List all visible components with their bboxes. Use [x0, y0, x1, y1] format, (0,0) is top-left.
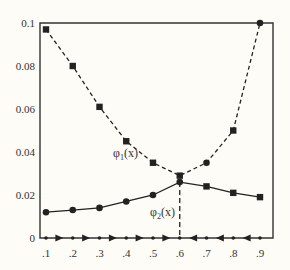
- series-line-1: [46, 23, 260, 176]
- x-axis-dot: [258, 236, 262, 240]
- x-tick-label: .5: [149, 247, 158, 259]
- x-axis-dot: [151, 236, 155, 240]
- square-marker: [203, 183, 209, 189]
- circle-marker: [43, 209, 50, 216]
- left-arrow-icon: [243, 235, 251, 242]
- y-tick-label: 0.02: [16, 189, 35, 201]
- x-axis-ticks: .1.2.3.4.5.6.7.8.9: [42, 236, 265, 259]
- phi1-label: φ1(x): [113, 146, 138, 162]
- square-marker: [70, 63, 76, 69]
- series-labels: φ1(x)φ2(x): [113, 146, 175, 221]
- square-marker: [230, 190, 236, 196]
- x-tick-label: .9: [256, 247, 265, 259]
- right-arrow-icon: [109, 235, 117, 242]
- square-marker: [177, 172, 183, 178]
- y-axis-ticks: 00.020.040.060.080.1: [16, 17, 36, 244]
- right-arrow-icon: [136, 235, 144, 242]
- y-tick-label: 0.06: [16, 103, 36, 115]
- x-tick-label: .4: [122, 247, 131, 259]
- x-axis-dot: [205, 236, 209, 240]
- x-tick-label: .1: [42, 247, 50, 259]
- circle-marker: [96, 205, 103, 212]
- y-tick-label: 0: [30, 232, 36, 244]
- phi2-label: φ2(x): [150, 205, 175, 221]
- circle-marker: [150, 192, 157, 199]
- circle-marker: [176, 179, 183, 186]
- left-arrow-icon: [189, 235, 197, 242]
- square-marker: [230, 127, 236, 133]
- x-axis-dot: [44, 236, 48, 240]
- circle-marker: [257, 20, 264, 27]
- y-tick-label: 0.1: [21, 17, 35, 29]
- chart: 00.020.040.060.080.1 .1.2.3.4.5.6.7.8.9 …: [0, 0, 290, 270]
- chart-svg: 00.020.040.060.080.1 .1.2.3.4.5.6.7.8.9 …: [0, 0, 290, 270]
- left-arrow-icon: [216, 235, 224, 242]
- square-marker: [96, 104, 102, 110]
- circle-marker: [123, 198, 130, 205]
- square-marker: [150, 160, 156, 166]
- series-markers: [43, 20, 264, 216]
- right-arrow-icon: [82, 235, 90, 242]
- right-arrow-icon: [162, 235, 170, 242]
- x-axis-dot: [124, 236, 128, 240]
- x-axis-dot: [98, 236, 102, 240]
- y-tick-label: 0.08: [16, 60, 36, 72]
- x-tick-label: .7: [202, 247, 211, 259]
- circle-marker: [203, 159, 210, 166]
- x-tick-label: .6: [176, 247, 185, 259]
- right-arrow-icon: [55, 235, 63, 242]
- x-axis-dot: [231, 236, 235, 240]
- circle-marker: [69, 207, 76, 214]
- x-tick-label: .3: [95, 247, 104, 259]
- x-tick-label: .8: [229, 247, 238, 259]
- square-marker: [257, 194, 263, 200]
- x-axis-dot: [71, 236, 75, 240]
- x-tick-label: .2: [69, 247, 77, 259]
- square-marker: [123, 138, 129, 144]
- square-marker: [43, 26, 49, 32]
- y-tick-label: 0.04: [16, 146, 36, 158]
